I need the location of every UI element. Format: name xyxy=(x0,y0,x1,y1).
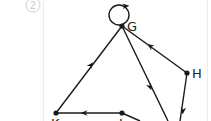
node-j xyxy=(119,110,124,115)
node-g-label: G xyxy=(127,19,137,34)
node-k xyxy=(53,110,58,115)
node-h xyxy=(184,70,189,75)
edge-g-self-loop xyxy=(109,5,129,25)
edge-h-to-bottom xyxy=(180,73,187,121)
directed-graph: 2 G H K J xyxy=(0,0,211,121)
node-j-label: J xyxy=(118,116,123,121)
edge-g-to-bottom xyxy=(122,26,168,121)
node-k-label: K xyxy=(51,116,60,121)
figure-number-badge: 2 xyxy=(26,0,40,12)
node-g xyxy=(119,23,124,28)
svg-text:2: 2 xyxy=(30,0,36,11)
edge-j-to-bottom xyxy=(122,113,140,121)
node-h-label: H xyxy=(192,66,202,81)
edge-k-to-g xyxy=(56,26,122,113)
